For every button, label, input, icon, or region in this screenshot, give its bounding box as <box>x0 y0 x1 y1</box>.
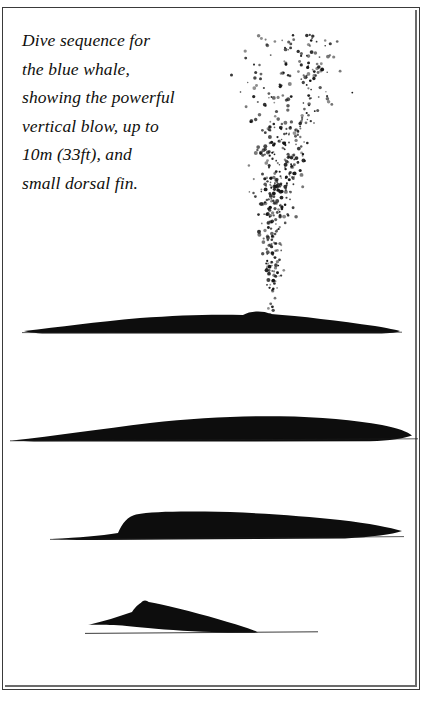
blow-spray-droplet <box>326 71 328 73</box>
blow-spray-droplet <box>269 284 271 286</box>
blow-spray-droplet <box>316 109 319 112</box>
blow-spray-droplet <box>315 67 318 70</box>
blow-spray-droplet <box>259 77 262 80</box>
blow-spray-droplet <box>254 118 258 122</box>
blow-spray-droplet <box>262 240 266 244</box>
blow-spray-droplet <box>273 282 276 285</box>
blow-spray-droplet <box>300 52 303 55</box>
blow-spray-droplet <box>266 278 270 282</box>
blow-spray-droplet <box>245 105 248 108</box>
blow-spray-droplet <box>260 37 263 40</box>
blow-spray-droplet <box>264 153 266 155</box>
blow-spray-droplet <box>271 211 274 214</box>
blow-spray-droplet <box>264 131 267 134</box>
blow-spray-droplet <box>271 238 274 241</box>
blow-spray-droplet <box>257 213 260 216</box>
blow-spray-droplet <box>303 102 305 104</box>
blow-spray-droplet <box>268 150 271 153</box>
blow-spray-droplet <box>281 139 283 141</box>
blow-spray-droplet <box>274 126 276 128</box>
blow-spray-droplet <box>248 164 250 166</box>
blow-spray-droplet <box>293 131 297 135</box>
blow-spray-droplet <box>266 284 268 286</box>
blow-spray-droplet <box>273 241 275 243</box>
blow-spray-droplet <box>258 64 261 67</box>
blow-spray-droplet <box>276 211 279 214</box>
blow-spray-droplet <box>268 198 270 200</box>
blow-spray-droplet <box>254 195 257 198</box>
whale-silhouette-stage-3 <box>52 511 402 540</box>
blow-spray-droplet <box>263 182 267 186</box>
blow-spray-droplet <box>294 135 297 138</box>
blow-spray-droplet <box>265 248 268 251</box>
blow-spray-droplet <box>286 184 288 186</box>
blow-spray-droplet <box>282 215 286 219</box>
blow-spray-droplet <box>294 139 297 142</box>
blow-spray-droplet <box>271 305 274 308</box>
blow-spray-droplet <box>274 218 277 221</box>
blow-spray-droplet <box>269 121 271 123</box>
blow-spray-droplet <box>268 125 272 129</box>
blow-spray-droplet <box>268 192 271 195</box>
blow-spray-droplet <box>284 222 287 225</box>
blow-spray-droplet <box>316 63 319 66</box>
blow-spray-droplet <box>293 163 296 166</box>
blow-spray-droplet <box>285 187 287 189</box>
blow-spray-droplet <box>261 223 263 225</box>
whale-waterline-stage-4 <box>85 632 318 634</box>
blow-spray-droplet <box>279 175 281 177</box>
blow-spray-droplet <box>279 214 282 217</box>
blow-spray-droplet <box>295 143 297 145</box>
blow-spray-droplet <box>283 72 285 74</box>
blow-spray-droplet <box>265 39 267 41</box>
blow-spray-droplet <box>300 151 303 154</box>
blow-spray-droplet <box>317 71 320 74</box>
blow-spray-droplet <box>312 69 314 71</box>
blow-spray-droplet <box>299 136 301 138</box>
blow-spray-droplet <box>275 223 277 225</box>
blow-spray-droplet <box>260 188 262 190</box>
blow-spray-droplet <box>288 126 291 129</box>
blow-spray-droplet <box>261 252 264 255</box>
blow-spray-droplet <box>299 128 301 130</box>
blow-spray-droplet <box>308 65 310 67</box>
blow-spray-droplet <box>267 226 270 229</box>
blow-spray-droplet <box>330 103 333 106</box>
blow-spray-droplet <box>278 189 281 192</box>
blow-spray-droplet <box>252 192 255 195</box>
blow-spray-droplet <box>276 287 278 289</box>
blow-spray-droplet <box>267 272 271 276</box>
blow-spray-droplet <box>297 161 300 164</box>
blow-spray-droplet <box>273 214 275 216</box>
blow-spray-droplet <box>266 235 269 238</box>
blow-spray-droplet <box>307 62 310 65</box>
blow-spray-droplet <box>275 230 278 233</box>
blow-spray-droplet <box>307 43 310 46</box>
blow-spray-droplet <box>276 136 278 138</box>
blow-spray-droplet <box>351 92 353 94</box>
blow-spray-droplet <box>266 260 268 262</box>
blow-spray-droplet <box>309 34 311 36</box>
blow-spray-droplet <box>278 242 281 245</box>
blow-spray-droplet <box>305 121 308 124</box>
blow-spray-droplet <box>311 37 313 39</box>
blow-spray-droplet <box>270 227 272 229</box>
blow-spray-droplet <box>240 91 242 93</box>
blow-spray-droplet <box>292 34 294 36</box>
blow-spray-droplet <box>308 105 310 107</box>
blow-spray-droplet <box>270 182 272 184</box>
blow-spray-droplet <box>285 160 288 163</box>
whale-silhouettes-group <box>10 311 418 633</box>
blow-spray-droplet <box>274 256 277 259</box>
blow-spray-droplet <box>288 179 290 181</box>
blow-spray-droplet <box>283 148 285 150</box>
blow-spray-droplet <box>256 145 260 149</box>
blow-spray-droplet <box>280 274 282 276</box>
blow-spray-droplet <box>247 82 249 84</box>
blow-spray-droplet <box>266 44 270 48</box>
blow-spray-droplet <box>269 129 271 131</box>
blow-spray-droplet <box>302 81 305 84</box>
blow-spray-droplet <box>326 55 330 59</box>
blow-spray-droplet <box>264 187 268 191</box>
blow-spray-droplet <box>264 202 267 205</box>
